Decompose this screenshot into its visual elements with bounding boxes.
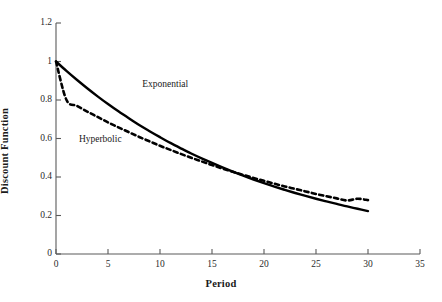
y-tick-label: 1.2 (20, 17, 52, 27)
y-tick-label: 1 (20, 56, 52, 66)
x-tick-label: 15 (197, 259, 227, 269)
x-tick-label: 10 (145, 259, 175, 269)
y-axis-ticks (56, 23, 61, 254)
plot-area (0, 0, 442, 302)
x-axis-label: Period (0, 278, 442, 289)
x-tick-label: 30 (353, 259, 383, 269)
discount-function-chart: Discount Function Period 00.20.40.60.811… (0, 0, 442, 302)
y-tick-label: 0.4 (20, 171, 52, 181)
x-tick-label: 20 (249, 259, 279, 269)
x-tick-label: 5 (93, 259, 123, 269)
y-tick-label: 0.8 (20, 94, 52, 104)
y-tick-label: 0 (20, 248, 52, 258)
x-tick-label: 25 (301, 259, 331, 269)
x-axis-ticks (56, 249, 420, 254)
y-tick-label: 0.2 (20, 210, 52, 220)
x-tick-label: 0 (41, 259, 71, 269)
y-axis-label-text: Discount Function (0, 108, 10, 194)
annotation-exponential: Exponential (142, 79, 188, 89)
annotation-hyperbolic: Hyperbolic (79, 134, 122, 144)
x-tick-label: 35 (405, 259, 435, 269)
y-tick-label: 0.6 (20, 133, 52, 143)
series-line-hyperbolic (56, 62, 368, 201)
